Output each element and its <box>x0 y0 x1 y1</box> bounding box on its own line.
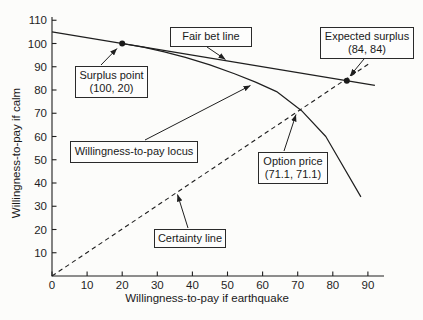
certainty-line-label: Certainty line <box>154 229 226 248</box>
x-tick-label: 40 <box>186 279 199 291</box>
x-tick-label: 70 <box>291 279 304 291</box>
wtp-locus-label-text: Willingness-to-pay locus <box>75 145 194 159</box>
fair-bet-line-label-text: Fair bet line <box>182 30 239 44</box>
fair-bet-line-label: Fair bet line <box>170 27 252 47</box>
x-axis-title: Willingness-to-pay if earthquake <box>52 292 362 304</box>
y-tick-label: 30 <box>34 200 47 212</box>
wtp-locus-label: Willingness-to-pay locus <box>70 141 198 163</box>
expected-surplus-label-value: (84, 84) <box>348 43 386 57</box>
y-tick-label: 90 <box>34 61 47 73</box>
expected-surplus-label-text: Expected surplus <box>325 30 409 44</box>
y-tick-label: 20 <box>34 224 47 236</box>
surplus-point-label-text: Surplus point <box>79 69 143 83</box>
x-tick-label: 80 <box>326 279 339 291</box>
y-tick-label: 60 <box>34 131 47 143</box>
expected-surplus-dot <box>344 78 350 84</box>
x-tick-label: 90 <box>362 279 375 291</box>
option-price-label: Option price (71.1, 71.1) <box>258 152 328 184</box>
surplus-point-leader-arrow <box>101 49 117 66</box>
expected-surplus-leader-arrow <box>350 59 364 76</box>
y-tick-label: 80 <box>34 84 47 96</box>
option-price-label-text: Option price <box>263 155 322 169</box>
y-axis-title: Willingness-to-pay if calm <box>10 68 24 238</box>
y-tick-label: 10 <box>34 247 47 259</box>
y-tick-label: 70 <box>34 107 47 119</box>
chart-figure: 0102030405060708090102030405060708090100… <box>0 0 423 320</box>
wtp-locus-leader-arrow <box>145 86 251 141</box>
y-tick-label: 100 <box>28 38 47 50</box>
x-tick-label: 30 <box>151 279 164 291</box>
surplus-point-label: Surplus point (100, 20) <box>75 66 148 98</box>
option-price-label-value: (71.1, 71.1) <box>265 168 321 182</box>
certainty-line-leader-arrow <box>178 195 189 229</box>
surplus-point-label-value: (100, 20) <box>89 82 133 96</box>
y-tick-label: 110 <box>29 14 47 26</box>
x-tick-label: 0 <box>49 279 55 291</box>
certainty-line-label-text: Certainty line <box>158 232 222 246</box>
y-tick-label: 40 <box>34 177 47 189</box>
expected-surplus-label: Expected surplus (84, 84) <box>320 27 414 59</box>
x-tick-label: 60 <box>256 279 269 291</box>
x-tick-label: 50 <box>221 279 234 291</box>
y-tick-label: 50 <box>34 154 47 166</box>
x-tick-label: 10 <box>81 279 94 291</box>
x-tick-label: 20 <box>116 279 129 291</box>
surplus-point-dot <box>119 41 125 47</box>
